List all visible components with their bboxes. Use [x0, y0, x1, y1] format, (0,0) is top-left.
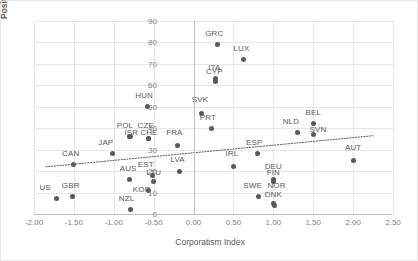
gridline-horizontal [34, 42, 393, 43]
y-axis-tick-label: 10 [135, 188, 157, 197]
data-point-label: HUN [135, 91, 153, 100]
data-point-label: BEL [306, 108, 321, 117]
x-axis-tick-label: -0.50 [134, 218, 174, 227]
data-point-label: NLD [283, 117, 299, 126]
x-axis-tick-label: 2.00 [333, 218, 373, 227]
data-point-label: FRA [166, 128, 182, 137]
x-axis-line [34, 214, 393, 215]
data-point-label: SVN [310, 125, 327, 134]
x-axis-tick-label: 2.50 [373, 218, 413, 227]
y-axis-tick-label: 40 [135, 124, 157, 133]
data-point-label: DNK [265, 190, 282, 199]
data-point[interactable] [209, 126, 214, 131]
data-point[interactable] [128, 207, 133, 212]
data-point[interactable] [215, 42, 220, 47]
gridline-vertical [154, 21, 155, 214]
data-point[interactable] [71, 162, 76, 167]
x-axis-tick-label: -1.00 [94, 218, 134, 227]
data-point[interactable] [241, 57, 246, 62]
y-axis-title: Position in Ease of Doing Business Ranki… [0, 0, 9, 19]
gridline-horizontal [34, 107, 393, 108]
data-point[interactable] [231, 164, 236, 169]
data-point[interactable] [146, 136, 151, 141]
data-point-label: ESP [246, 138, 262, 147]
x-axis-tick-label: -1.50 [54, 218, 94, 227]
y-axis-tick-label: 30 [135, 145, 157, 154]
gridline-vertical [114, 21, 115, 214]
data-point[interactable] [177, 169, 182, 174]
plot-area: USGBRCANJAPAUSNZLPOLISRCZECHEHUNKORESTLT… [34, 21, 393, 214]
data-point-label: JAP [98, 138, 113, 147]
gridline-vertical [393, 21, 394, 214]
x-axis-tick-label: 0.50 [213, 218, 253, 227]
data-point-label: AUT [345, 143, 361, 152]
x-axis-tick-label: 0.00 [174, 218, 214, 227]
y-axis-tick-label: 90 [135, 17, 157, 26]
data-point[interactable] [54, 196, 59, 201]
data-point[interactable] [175, 143, 180, 148]
data-point[interactable] [272, 203, 277, 208]
gridline-horizontal [34, 150, 393, 151]
gridline-horizontal [34, 171, 393, 172]
data-point-label: PRT [200, 113, 216, 122]
data-point[interactable] [127, 177, 132, 182]
gridline-vertical [313, 21, 314, 214]
gridline-vertical [34, 21, 35, 214]
gridline-horizontal [34, 85, 393, 86]
gridline-horizontal [34, 193, 393, 194]
data-point-label: CYP [206, 67, 223, 76]
y-axis-tick-label: 60 [135, 81, 157, 90]
data-point-label: CAN [62, 149, 79, 158]
data-point-label: LUX [233, 44, 249, 53]
data-point[interactable] [295, 130, 300, 135]
scatter-chart: Position in Ease of Doing Business Ranki… [0, 0, 418, 261]
data-point[interactable] [256, 194, 261, 199]
x-axis-tick-label: 1.00 [253, 218, 293, 227]
data-point-label: IRL [225, 149, 238, 158]
data-point-label: LVA [170, 155, 184, 164]
gridline-vertical [353, 21, 354, 214]
data-point-label: AUS [120, 164, 137, 173]
x-axis-title: Corporatism Index [1, 237, 418, 247]
data-point-label: GRC [205, 29, 223, 38]
data-point-label: NZL [119, 194, 134, 203]
y-axis-tick-label: 50 [135, 102, 157, 111]
x-axis-tick-label: 1.50 [293, 218, 333, 227]
y-axis-tick-label: 80 [135, 38, 157, 47]
x-axis-tick-label: -2.00 [14, 218, 54, 227]
data-point-label: SWE [243, 181, 262, 190]
data-point[interactable] [151, 179, 156, 184]
data-point[interactable] [351, 158, 356, 163]
y-axis-tick-label: 70 [135, 59, 157, 68]
y-axis-line [194, 21, 195, 214]
data-point-label: FIN [267, 168, 280, 177]
data-point[interactable] [255, 151, 260, 156]
data-point-label: US [39, 183, 50, 192]
data-point-label: GBR [62, 181, 80, 190]
gridline-horizontal [34, 21, 393, 22]
y-axis-tick-label: 20 [135, 167, 157, 176]
